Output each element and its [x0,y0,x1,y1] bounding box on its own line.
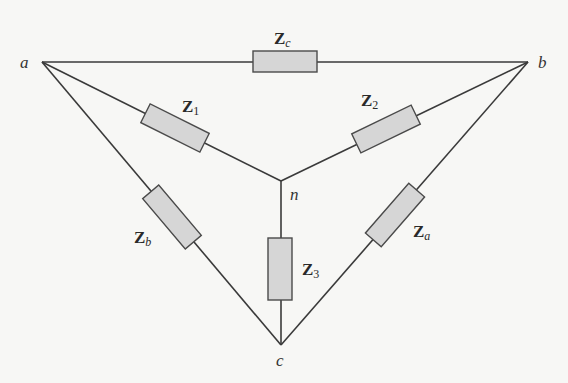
wye-wires [42,62,528,345]
resistor-z3 [268,238,292,300]
resistor-zc [253,51,317,72]
node-label-a: a [20,53,29,72]
label-z2: Z2 [361,91,378,112]
resistor-zb [143,185,202,249]
node-label-n: n [290,185,299,204]
resistor-z2 [352,105,421,153]
circuit-diagram: a b n c Zc Z1 Z2 Zb Za Z3 [0,0,568,383]
label-z3: Z3 [302,260,319,281]
node-label-b: b [538,53,547,72]
label-zc: Zc [274,29,291,50]
label-zb: Zb [134,228,151,249]
delta-wires [42,62,528,345]
label-za: Za [413,222,430,243]
node-label-c: c [276,351,284,370]
label-z1: Z1 [182,97,199,118]
